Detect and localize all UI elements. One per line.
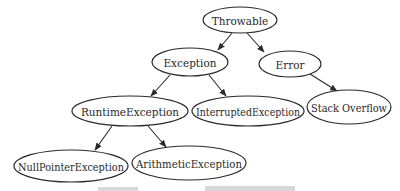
node-null-pointer-exception: NullPointerException [14, 150, 128, 182]
node-label: Exception [163, 57, 216, 69]
edges-group [95, 33, 337, 150]
nodes-group: Throwable Exception Error RuntimeExcepti… [14, 7, 391, 182]
node-throwable: Throwable [203, 7, 277, 33]
node-interrupted-exception: InterruptedException [192, 96, 304, 126]
node-label: Error [275, 59, 305, 71]
caption-fragment [205, 186, 295, 191]
node-exception: Exception [152, 48, 228, 76]
node-label: InterruptedException [196, 106, 300, 118]
node-label: Throwable [212, 15, 269, 27]
node-stack-overflow: Stack Overflow [307, 90, 391, 124]
node-arithmetic-exception: ArithmeticException [132, 146, 246, 180]
figure-caption-clipped [98, 186, 295, 191]
edge-throwable-error [247, 33, 264, 52]
node-label: Stack Overflow [311, 102, 387, 114]
edge-error-stack-overflow [310, 74, 337, 91]
node-label: NullPointerException [18, 161, 124, 173]
edge-runtime-exception-null-pointer-exception [95, 126, 112, 150]
node-label: ArithmeticException [135, 158, 242, 170]
node-runtime-exception: RuntimeException [72, 96, 188, 126]
exception-hierarchy-diagram: Throwable Exception Error RuntimeExcepti… [0, 0, 400, 191]
caption-fragment [98, 187, 138, 191]
edge-throwable-exception [218, 33, 232, 50]
edge-exception-interrupted-exception [209, 75, 226, 96]
node-label: RuntimeException [81, 106, 179, 118]
node-error: Error [259, 51, 321, 77]
edge-exception-runtime-exception [151, 75, 170, 96]
edge-runtime-exception-arithmetic-exception [148, 126, 166, 147]
